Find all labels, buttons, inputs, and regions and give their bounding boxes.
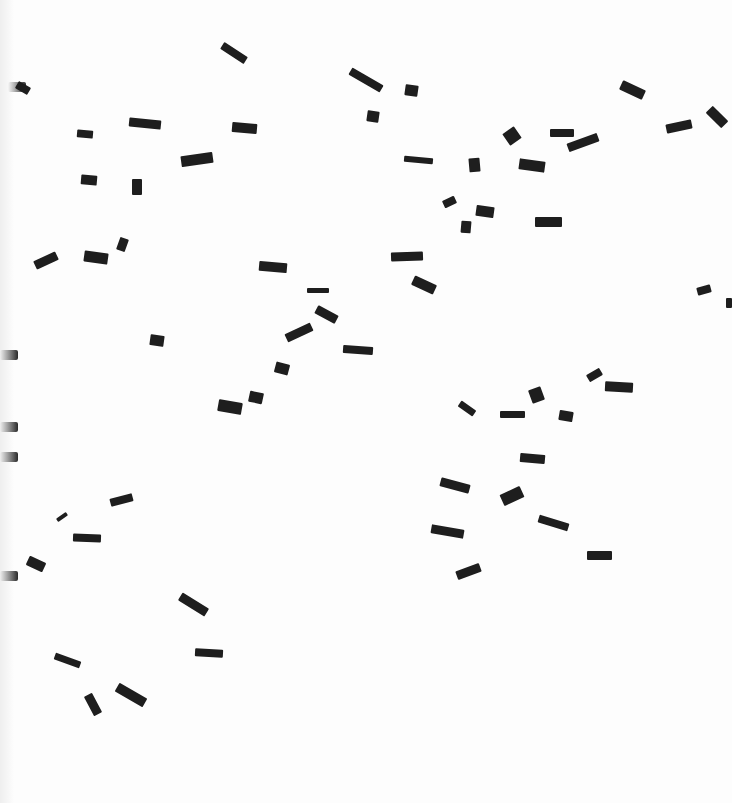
dark-fragment <box>468 158 480 173</box>
dark-fragment <box>411 275 437 294</box>
dark-fragment <box>500 411 525 418</box>
dark-fragment <box>391 251 423 261</box>
dark-fragment <box>26 556 47 573</box>
dark-fragment <box>178 592 209 616</box>
dark-fragment <box>109 493 133 507</box>
dark-fragment <box>314 305 339 324</box>
dark-fragment <box>149 334 164 347</box>
dark-fragment <box>73 534 101 543</box>
dark-fragment <box>129 117 162 129</box>
dark-fragment <box>499 486 524 506</box>
dark-fragment <box>706 106 729 129</box>
dark-fragment <box>460 221 471 234</box>
dark-fragment <box>404 84 418 97</box>
dark-fragment <box>366 110 379 123</box>
dark-fragment <box>605 381 633 392</box>
dark-fragment <box>586 368 603 382</box>
edge-blot <box>0 350 18 360</box>
dark-fragment <box>528 386 545 404</box>
dark-fragment <box>587 551 612 560</box>
dark-fragment <box>77 129 94 138</box>
dark-fragment <box>535 217 562 227</box>
edge-blot <box>0 452 18 462</box>
dark-fragment <box>284 323 313 343</box>
dark-fragment <box>348 68 383 93</box>
dark-fragment <box>404 156 433 165</box>
dark-fragment <box>180 152 213 167</box>
dark-fragment <box>665 119 692 133</box>
dark-fragment <box>220 42 248 64</box>
dark-fragment <box>307 288 329 293</box>
dark-fragment <box>56 512 68 522</box>
dark-fragment <box>502 126 521 145</box>
dark-fragment <box>81 174 98 185</box>
dark-fragment <box>83 250 108 264</box>
scanned-page <box>0 0 732 803</box>
dark-fragment <box>33 251 59 269</box>
dark-fragment <box>558 410 574 422</box>
dark-fragment <box>696 284 712 295</box>
page-edge-shadow <box>0 0 14 803</box>
dark-fragment <box>520 453 546 464</box>
dark-fragment <box>116 237 129 252</box>
edge-blot <box>0 571 18 581</box>
dark-fragment <box>455 563 482 580</box>
dark-fragment <box>343 345 373 355</box>
dark-fragment <box>274 361 290 375</box>
dark-fragment <box>619 80 646 100</box>
dark-fragment <box>232 122 258 134</box>
dark-fragment <box>195 648 223 657</box>
dark-fragment <box>54 653 82 669</box>
dark-fragment <box>726 298 732 308</box>
dark-fragment <box>217 399 243 415</box>
dark-fragment <box>458 400 477 416</box>
dark-fragment <box>439 477 470 493</box>
dark-fragment <box>430 524 464 539</box>
dark-fragment <box>259 261 288 273</box>
dark-fragment <box>475 205 494 218</box>
dark-fragment <box>115 683 148 708</box>
dark-fragment <box>538 515 570 532</box>
dark-fragment <box>248 391 264 405</box>
dark-fragment <box>84 693 102 717</box>
dark-fragment <box>132 179 142 195</box>
dark-fragment <box>518 158 545 173</box>
dark-fragment <box>15 81 31 95</box>
dark-fragment <box>442 196 457 209</box>
dark-fragment <box>550 129 574 137</box>
edge-blot <box>0 422 18 432</box>
